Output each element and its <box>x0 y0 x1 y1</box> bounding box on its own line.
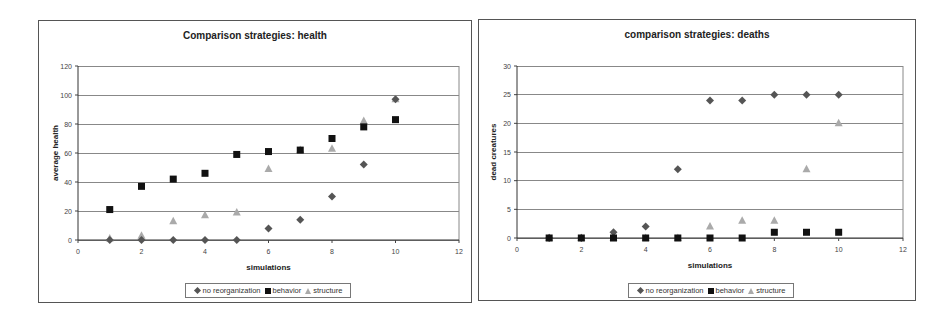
y-tick-label: 15 <box>503 149 511 156</box>
legend-label: behavior <box>716 286 745 295</box>
x-tick-label: 10 <box>835 246 843 253</box>
data-point-no-reorganization <box>803 91 811 99</box>
y-tick-label: 20 <box>503 120 511 127</box>
data-point-structure <box>706 222 714 230</box>
x-tick-label: 12 <box>899 246 907 253</box>
data-point-behavior <box>835 229 842 236</box>
data-point-behavior <box>739 235 746 242</box>
data-point-no-reorganization <box>642 223 650 231</box>
data-point-no-reorganization <box>738 96 746 104</box>
data-point-behavior <box>771 229 778 236</box>
data-point-behavior <box>674 235 681 242</box>
deaths-chart-legend: no reorganization behavior structure <box>628 283 794 298</box>
data-point-structure <box>770 216 778 224</box>
diamond-marker-icon <box>636 287 643 294</box>
deaths-chart-plot: 051015202530024681012simulationsdead cre… <box>0 0 948 317</box>
data-point-structure <box>835 119 843 127</box>
data-point-structure <box>738 216 746 224</box>
data-point-behavior <box>546 235 553 242</box>
data-point-no-reorganization <box>770 91 778 99</box>
y-axis-title: dead creatures <box>489 123 498 180</box>
x-tick-label: 6 <box>708 246 712 253</box>
x-axis-title: simulations <box>688 261 733 270</box>
data-point-no-reorganization <box>674 165 682 173</box>
data-point-structure <box>803 165 811 173</box>
y-tick-label: 30 <box>503 63 511 70</box>
data-point-behavior <box>803 229 810 236</box>
legend-label: structure <box>756 286 785 295</box>
x-tick-label: 0 <box>515 246 519 253</box>
y-tick-label: 25 <box>503 91 511 98</box>
x-tick-label: 4 <box>644 246 648 253</box>
data-point-no-reorganization <box>706 96 714 104</box>
data-point-behavior <box>578 235 585 242</box>
legend-item-structure: structure <box>748 286 785 295</box>
square-marker-icon <box>708 288 714 294</box>
y-tick-label: 0 <box>507 235 511 242</box>
y-tick-label: 10 <box>503 177 511 184</box>
triangle-marker-icon <box>748 288 754 294</box>
x-tick-label: 8 <box>772 246 776 253</box>
data-point-no-reorganization <box>835 91 843 99</box>
legend-item-behavior: behavior <box>708 286 745 295</box>
x-tick-label: 2 <box>579 246 583 253</box>
legend-label: no reorganization <box>646 286 704 295</box>
y-tick-label: 5 <box>507 206 511 213</box>
data-point-behavior <box>707 235 714 242</box>
legend-item-no-reorganization: no reorganization <box>637 286 704 295</box>
data-point-behavior <box>642 235 649 242</box>
data-point-behavior <box>610 235 617 242</box>
